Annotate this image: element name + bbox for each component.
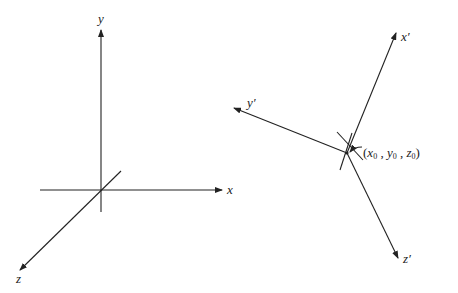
z-axis-label: z [15,271,21,286]
z-prime-axis-label: z′ [402,251,411,266]
y-prime-axis-label: y′ [245,95,256,110]
y-prime-axis [234,108,347,153]
z-prime-axis [347,153,398,258]
z-axis [20,171,121,270]
origin-cross-tick-1 [337,132,363,160]
y-axis-label: y [96,11,104,26]
x-prime-axis-label: x′ [400,29,410,44]
origin-coordinates-label: (x0 , y0 , z0) [363,145,420,161]
x-prime-axis [347,33,396,153]
x-axis-label: x [226,182,233,197]
right-frame: x′ y′ z′ (x0 , y0 , z0) [234,29,420,266]
left-frame: x y z [15,11,233,286]
coordinate-frames-diagram: x y z x′ y′ z′ (x0 , y0 , z0) [0,0,458,293]
origin-point [345,151,348,154]
